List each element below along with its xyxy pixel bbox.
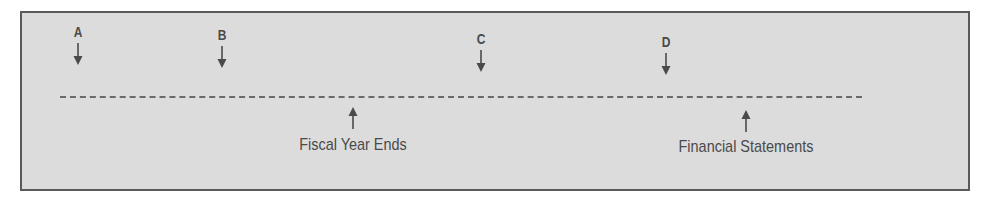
marker-letter: C	[473, 31, 489, 47]
arrow-up-icon	[741, 110, 751, 132]
timeline-dashed-line	[60, 96, 862, 98]
diagram-frame	[20, 11, 970, 191]
arrow-down-icon	[661, 53, 671, 75]
marker-letter: B	[214, 27, 230, 43]
marker-letter: D	[658, 34, 674, 50]
event-label: Fiscal Year Ends	[268, 135, 438, 155]
event-fiscal-year-ends: Fiscal Year Ends	[253, 107, 453, 155]
marker-letter: A	[70, 24, 86, 40]
arrow-up-icon	[348, 107, 358, 129]
arrow-down-icon	[73, 43, 83, 65]
marker-d: D	[656, 34, 676, 75]
arrow-down-icon	[217, 46, 227, 68]
marker-b: B	[212, 27, 232, 68]
event-financial-statements: Financial Statements	[646, 110, 846, 157]
marker-a: A	[68, 24, 88, 65]
marker-c: C	[471, 31, 491, 72]
arrow-down-icon	[476, 50, 486, 72]
event-label: Financial Statements	[661, 137, 831, 157]
